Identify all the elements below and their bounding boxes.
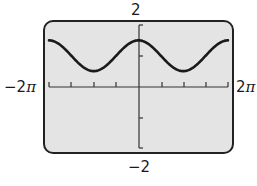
y-max-label: 2 <box>131 3 141 18</box>
x-max-number: 2 <box>236 78 246 96</box>
x-max-label: 2π <box>236 80 255 95</box>
x-max-pi: π <box>246 78 256 96</box>
y-min-label: −2 <box>128 160 150 175</box>
x-min-label: −2π <box>4 80 36 95</box>
x-min-pi: π <box>26 78 36 96</box>
x-min-number: −2 <box>4 78 26 96</box>
